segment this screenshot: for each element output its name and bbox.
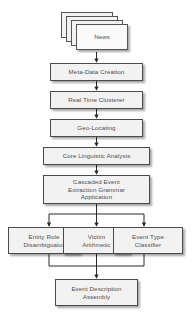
- node-cascaded-event-extraction[interactable]: Cascaded Event Extraction Grammar Applic…: [43, 175, 150, 204]
- node-meta-data-creation-label: Meta-Data Creation: [53, 68, 140, 76]
- node-event-type-classifier-label: Event Type Classifier: [116, 233, 180, 248]
- node-news-label: News: [94, 33, 109, 41]
- node-news[interactable]: News: [61, 12, 133, 52]
- node-real-time-clusterer-label: Real Time Clusterer: [53, 96, 140, 104]
- node-event-description-assembly-label: Event Description Assembly: [58, 285, 135, 300]
- node-event-type-classifier[interactable]: Event Type Classifier: [113, 227, 183, 254]
- flowchart-diagram: News Meta-Data Creation Real Time Cluste…: [0, 0, 193, 320]
- node-core-linguistic-analysis-label: Core Linguistic Analysis: [46, 152, 147, 160]
- node-core-linguistic-analysis[interactable]: Core Linguistic Analysis: [43, 147, 150, 165]
- node-real-time-clusterer[interactable]: Real Time Clusterer: [50, 91, 143, 109]
- news-sheet-front: News: [76, 24, 128, 50]
- node-geo-locating-label: Geo-Locating: [53, 124, 140, 132]
- node-event-description-assembly[interactable]: Event Description Assembly: [55, 279, 138, 306]
- node-cascaded-event-extraction-label: Cascaded Event Extraction Grammar Applic…: [46, 178, 147, 201]
- node-meta-data-creation[interactable]: Meta-Data Creation: [50, 63, 143, 81]
- node-geo-locating[interactable]: Geo-Locating: [50, 119, 143, 137]
